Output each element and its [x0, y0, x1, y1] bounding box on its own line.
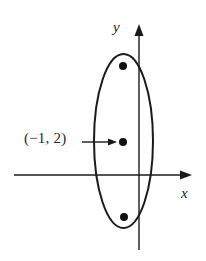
top-point — [119, 62, 127, 70]
center-point — [119, 138, 127, 146]
graph-figure: y x (−1, 2) — [0, 0, 206, 261]
x-axis-label: x — [181, 186, 188, 201]
annotation-arrow-head — [108, 139, 117, 146]
x-axis-arrowhead — [180, 171, 192, 180]
y-axis-arrowhead — [135, 24, 144, 36]
bottom-point — [120, 213, 128, 221]
y-axis-label: y — [113, 20, 120, 35]
center-point-coordinate-label: (−1, 2) — [24, 131, 66, 146]
